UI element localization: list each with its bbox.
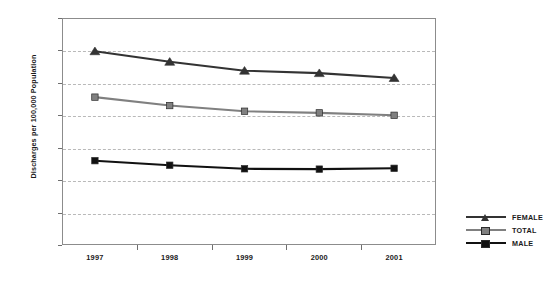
legend-label: FEMALE xyxy=(512,213,543,222)
x-tick-label: 1998 xyxy=(140,253,200,262)
legend-marker-icon xyxy=(481,240,490,249)
legend-item-male[interactable]: MALE xyxy=(466,240,542,253)
chart-container: Discharges per 100,000 Population 020040… xyxy=(0,0,544,282)
y-tick-mark xyxy=(58,245,62,246)
y-tick-mark xyxy=(58,83,62,84)
gridline xyxy=(63,84,435,85)
y-tick-mark xyxy=(58,148,62,149)
y-axis-title: Discharges per 100,000 Population xyxy=(29,22,38,212)
x-tick-label: 2001 xyxy=(364,253,424,262)
y-tick-mark xyxy=(58,115,62,116)
gridline xyxy=(63,116,435,117)
x-tick-mark xyxy=(286,245,287,250)
x-tick-label: 1997 xyxy=(65,253,125,262)
legend-label: MALE xyxy=(512,239,533,248)
y-tick-mark xyxy=(58,50,62,51)
gridline xyxy=(63,149,435,150)
x-tick-label: 2000 xyxy=(289,253,349,262)
x-tick-label: 1999 xyxy=(215,253,275,262)
x-tick-mark xyxy=(212,245,213,250)
gridline xyxy=(63,214,435,215)
y-tick-mark xyxy=(58,18,62,19)
chart-legend: FEMALETOTALMALE xyxy=(466,214,542,253)
gridline xyxy=(63,181,435,182)
x-tick-mark xyxy=(361,245,362,250)
gridline xyxy=(63,51,435,52)
plot-area xyxy=(62,18,436,245)
legend-marker-icon xyxy=(481,214,489,221)
legend-marker-icon xyxy=(481,227,490,236)
legend-label: TOTAL xyxy=(512,226,537,235)
y-tick-mark xyxy=(58,180,62,181)
y-tick-mark xyxy=(58,213,62,214)
x-tick-mark xyxy=(137,245,138,250)
